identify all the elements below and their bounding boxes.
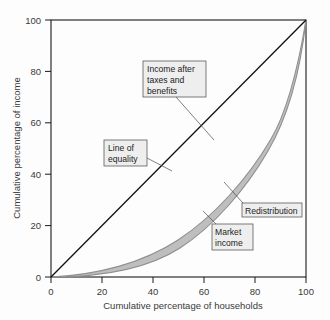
y-tick-label-80: 80 — [30, 66, 41, 77]
leader-line-line-of-equality — [147, 158, 172, 171]
x-axis-ticks — [51, 277, 306, 283]
callout-redistribution[interactable]: Redistribution — [224, 182, 302, 217]
callout-line-income-after-taxes-2: taxes and — [147, 75, 184, 85]
y-tick-label-20: 20 — [30, 220, 41, 231]
callout-income-after-taxes[interactable]: Income after taxes and benefits — [143, 61, 214, 140]
y-axis-title: Cumulative percentage of income — [11, 77, 22, 219]
x-axis-tick-labels: 0 20 40 60 80 100 — [48, 286, 314, 297]
x-tick-label-40: 40 — [148, 286, 159, 297]
lorenz-curve-chart: 0 20 40 60 80 100 0 20 40 60 80 100 Cumu… — [0, 0, 330, 320]
callout-line-market-income-2: income — [215, 238, 243, 248]
callout-line-line-of-equality-2: equality — [108, 154, 138, 164]
x-tick-label-0: 0 — [48, 286, 53, 297]
callout-line-redistribution-1: Redistribution — [245, 206, 298, 216]
x-tick-label-60: 60 — [199, 286, 210, 297]
y-axis-ticks — [45, 20, 51, 277]
callout-line-of-equality[interactable]: Line of equality — [104, 140, 172, 171]
x-tick-label-100: 100 — [298, 286, 314, 297]
y-tick-label-0: 0 — [36, 272, 41, 283]
y-tick-label-40: 40 — [30, 169, 41, 180]
x-tick-label-20: 20 — [97, 286, 108, 297]
callout-line-income-after-taxes-3: benefits — [147, 86, 177, 96]
y-tick-label-60: 60 — [30, 117, 41, 128]
callout-line-market-income-1: Market — [215, 227, 242, 237]
x-axis-title: Cumulative percentage of households — [103, 300, 263, 311]
x-tick-label-80: 80 — [250, 286, 261, 297]
y-tick-label-100: 100 — [25, 15, 41, 26]
chart-canvas: 0 20 40 60 80 100 0 20 40 60 80 100 Cumu… — [0, 0, 330, 320]
callout-line-line-of-equality-1: Line of — [108, 143, 134, 153]
y-axis-tick-labels: 0 20 40 60 80 100 — [25, 15, 41, 283]
callout-line-income-after-taxes-1: Income after — [147, 64, 195, 74]
